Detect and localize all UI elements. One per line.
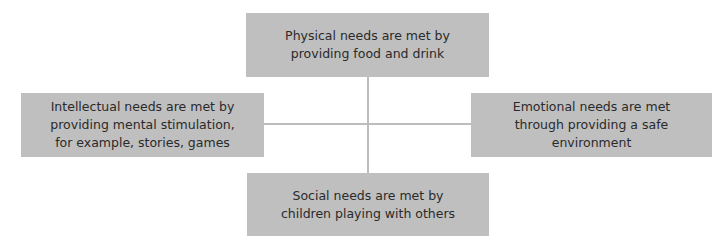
social-needs-box: Social needs are met by children playing… xyxy=(247,173,489,236)
emotional-needs-text: Emotional needs are met through providin… xyxy=(497,98,687,152)
physical-needs-box: Physical needs are met by providing food… xyxy=(246,13,489,77)
social-needs-text: Social needs are met by children playing… xyxy=(268,187,468,223)
intellectual-needs-box: Intellectual needs are met by providing … xyxy=(21,93,264,157)
physical-needs-text: Physical needs are met by providing food… xyxy=(278,27,458,63)
emotional-needs-box: Emotional needs are met through providin… xyxy=(471,93,712,157)
horizontal-connector xyxy=(264,123,471,125)
vertical-connector xyxy=(367,77,369,173)
intellectual-needs-text: Intellectual needs are met by providing … xyxy=(48,98,238,152)
